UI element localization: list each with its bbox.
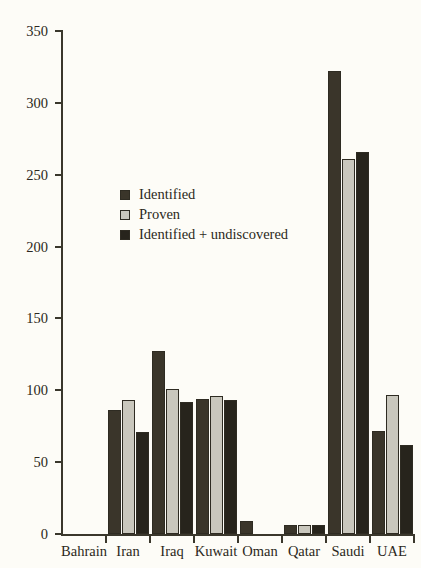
bar-saudi-series-1 [342,159,355,534]
x-tick-3 [237,534,239,543]
bar-group-bahrain [64,31,105,534]
x-tick-5 [325,534,327,543]
bar-group-qatar [284,31,325,534]
bar-kuwait-series-2 [224,400,237,534]
y-tick-label-100: 100 [26,383,48,398]
x-tick-6 [369,534,371,543]
chart-legend: IdentifiedProvenIdentified + undiscovere… [120,186,288,246]
y-tick-label-0: 0 [41,527,48,542]
bar-iraq-series-2 [180,402,193,534]
bar-group-iran [108,31,149,534]
bar-iran-series-2 [136,432,149,534]
bar-group-saudi [328,31,369,534]
legend-item-0: Identified [120,186,288,203]
y-tick-label-200: 200 [26,240,48,255]
y-tick-label-150: 150 [26,311,48,326]
legend-label-1: Proven [139,207,180,222]
x-label-uae: UAE [364,543,420,560]
bar-group-uae [372,31,413,534]
bar-qatar-series-1 [298,525,311,534]
legend-swatch-icon-0 [120,190,130,200]
plot-area [62,31,414,534]
bar-qatar-series-0 [284,525,297,534]
bar-iran-series-0 [108,410,121,534]
y-tick-label-300: 300 [26,96,48,111]
bar-kuwait-series-0 [196,399,209,534]
legend-item-2: Identified + undiscovered [120,226,288,243]
bar-group-oman [240,31,281,534]
bar-iraq-series-0 [152,351,165,534]
y-tick-label-350: 350 [26,24,48,39]
legend-swatch-icon-2 [120,230,130,240]
bar-iran-series-1 [122,400,135,534]
bar-oman-series-0 [240,521,253,534]
legend-item-1: Proven [120,206,288,223]
x-tick-7 [413,534,415,543]
bar-group-kuwait [196,31,237,534]
legend-label-2: Identified + undiscovered [139,227,288,242]
bar-uae-series-0 [372,431,385,534]
bar-uae-series-2 [400,445,413,534]
legend-label-0: Identified [139,187,195,202]
bar-qatar-series-2 [312,525,325,534]
x-tick-0 [105,534,107,543]
bar-chart: 050100150200250300350 BahrainIranIraqKuw… [0,0,421,568]
bar-iraq-series-1 [166,389,179,534]
bar-group-iraq [152,31,193,534]
bar-saudi-series-2 [356,152,369,534]
x-tick-4 [281,534,283,543]
y-tick-label-50: 50 [34,455,49,470]
x-tick-1 [149,534,151,543]
bar-kuwait-series-1 [210,396,223,534]
bar-uae-series-1 [386,395,399,534]
y-tick-label-250: 250 [26,168,48,183]
legend-swatch-icon-1 [120,210,130,220]
x-tick-2 [193,534,195,543]
bar-saudi-series-0 [328,71,341,534]
